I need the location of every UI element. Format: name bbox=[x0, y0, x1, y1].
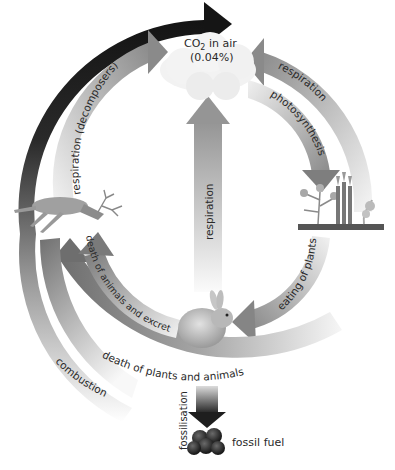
fossil-fuel-label: fossil fuel bbox=[232, 436, 284, 449]
co2-percentage: (0.04%) bbox=[190, 51, 234, 64]
fossilisation-arrow bbox=[188, 386, 226, 428]
fossilisation-label: fossilisation bbox=[178, 391, 189, 450]
plants-illustration bbox=[298, 172, 384, 230]
co2-label: CO2 in air bbox=[184, 37, 237, 52]
carbon-cycle-diagram: CO2 in air (0.04%) bbox=[0, 0, 395, 470]
respiration-center-label: respiration bbox=[203, 184, 215, 240]
fossil-fuel-illustration bbox=[187, 428, 225, 455]
